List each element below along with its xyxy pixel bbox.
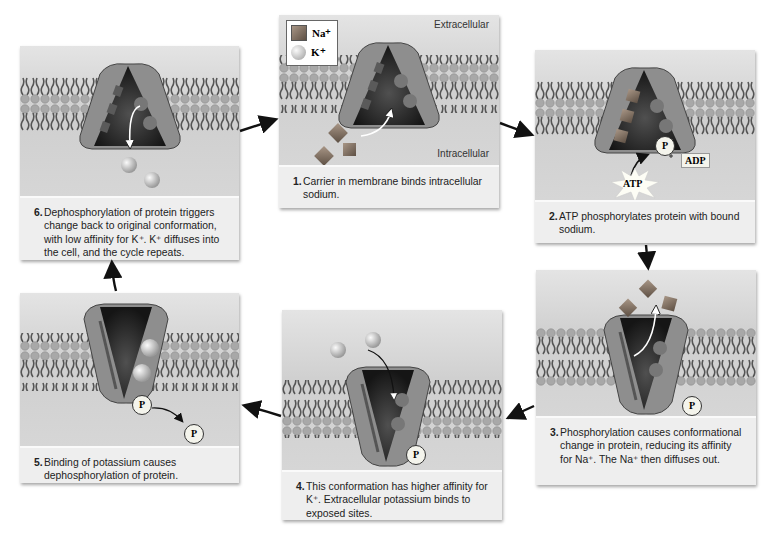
step-3-illustration: P (536, 270, 756, 416)
step-5-caption: 5. Binding of potassium causes dephospho… (20, 446, 239, 483)
potassium-ion (141, 339, 159, 357)
arrow-3-to-4 (510, 406, 534, 417)
phosphate-icon: P (406, 445, 426, 465)
legend: Na⁺ K⁺ (286, 20, 338, 66)
arrow-6-to-1 (240, 120, 274, 131)
arrow-4-to-5 (246, 406, 281, 416)
step-6-caption: 6. Dephosphorylation of protein triggers… (20, 196, 239, 260)
step-3-text: Phosphorylation causes conformational ch… (550, 426, 746, 466)
sodium-ion (343, 143, 356, 156)
adp-label: ADP (681, 153, 710, 168)
arrow-1-to-2 (500, 123, 530, 134)
arrow-2-to-3 (646, 245, 648, 266)
extracellular-label: Extracellular (434, 19, 489, 30)
sodium-ion (619, 299, 637, 317)
step-2-panel: P ATP ADP 2. ATP phosphorylates protein … (535, 50, 755, 243)
step-6-text: Dephosphorylation of protein triggers ch… (34, 206, 229, 260)
intracellular-label: Intracellular (437, 148, 489, 159)
atp-label: ATP (623, 178, 642, 189)
sodium-ion (639, 280, 657, 298)
step-6-illustration (20, 46, 239, 196)
sodium-square-icon (291, 25, 307, 41)
phosphate-icon: P (682, 396, 702, 416)
phosphate-icon: P (132, 395, 152, 415)
sodium-ion (314, 146, 334, 165)
step-3-panel: P 3. Phosphorylation causes conformation… (536, 270, 756, 485)
step-3-caption: 3. Phosphorylation causes conformational… (536, 416, 756, 485)
step-1-caption: 1. Carrier in membrane binds intracellul… (279, 165, 499, 208)
step-5-panel: P P 5. Binding of potassium causes depho… (20, 293, 239, 483)
potassium-ion (121, 157, 137, 173)
legend-item-sodium: Na⁺ (291, 25, 331, 41)
step-4-illustration: P (282, 310, 502, 470)
potassium-ion (133, 364, 151, 382)
potassium-ion (365, 332, 381, 348)
legend-item-potassium: K⁺ (291, 45, 326, 60)
step-1-text: Carrier in membrane binds intracellular … (293, 175, 489, 202)
step-5-text: Binding of potassium causes dephosphoryl… (34, 456, 229, 483)
phosphate-icon: P (655, 136, 675, 156)
step-2-illustration: P ATP ADP (535, 50, 755, 200)
step-4-text: This conformation has higher affinity fo… (296, 480, 492, 520)
step-4-caption: 4. This conformation has higher affinity… (282, 470, 502, 520)
step-6-panel: 6. Dephosphorylation of protein triggers… (20, 46, 239, 260)
released-phosphate-icon: P (184, 424, 204, 444)
step-5-illustration: P P (20, 293, 239, 446)
potassium-ion (144, 172, 160, 188)
sodium-ion (661, 296, 677, 312)
arrow-5-to-6 (112, 264, 116, 291)
step-2-caption: 2. ATP phosphorylates protein with bound… (535, 200, 755, 243)
potassium-circle-icon (291, 45, 306, 60)
step-2-text: ATP phosphorylates protein with bound so… (549, 210, 745, 237)
step-4-panel: P 4. This conformation has higher affini… (282, 310, 502, 520)
potassium-ion (330, 342, 346, 358)
